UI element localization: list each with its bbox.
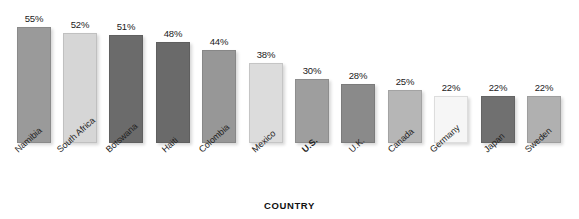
bar-value-label: 22%: [475, 82, 521, 93]
bar-value-label: 51%: [103, 21, 149, 32]
bar-haiti[interactable]: [156, 42, 190, 143]
bar-value-label: 55%: [11, 13, 57, 24]
bar-uk[interactable]: [341, 84, 375, 143]
bar-value-label: 52%: [57, 19, 103, 30]
bar-namibia[interactable]: [17, 27, 51, 143]
bar-value-label: 28%: [335, 70, 381, 81]
x-axis-title: COUNTRY: [0, 200, 579, 211]
bar-us[interactable]: [295, 79, 329, 143]
bar-value-label: 22%: [521, 82, 567, 93]
bar-value-label: 25%: [382, 76, 428, 87]
bar-value-label: 30%: [289, 65, 335, 76]
bar-value-label: 38%: [243, 49, 289, 60]
bar-value-label: 48%: [150, 28, 196, 39]
bar-chart: 55% 52% 51% 48% 44% 38% 30: [0, 0, 579, 219]
bar-value-label: 22%: [428, 82, 474, 93]
bar-value-label: 44%: [196, 36, 242, 47]
